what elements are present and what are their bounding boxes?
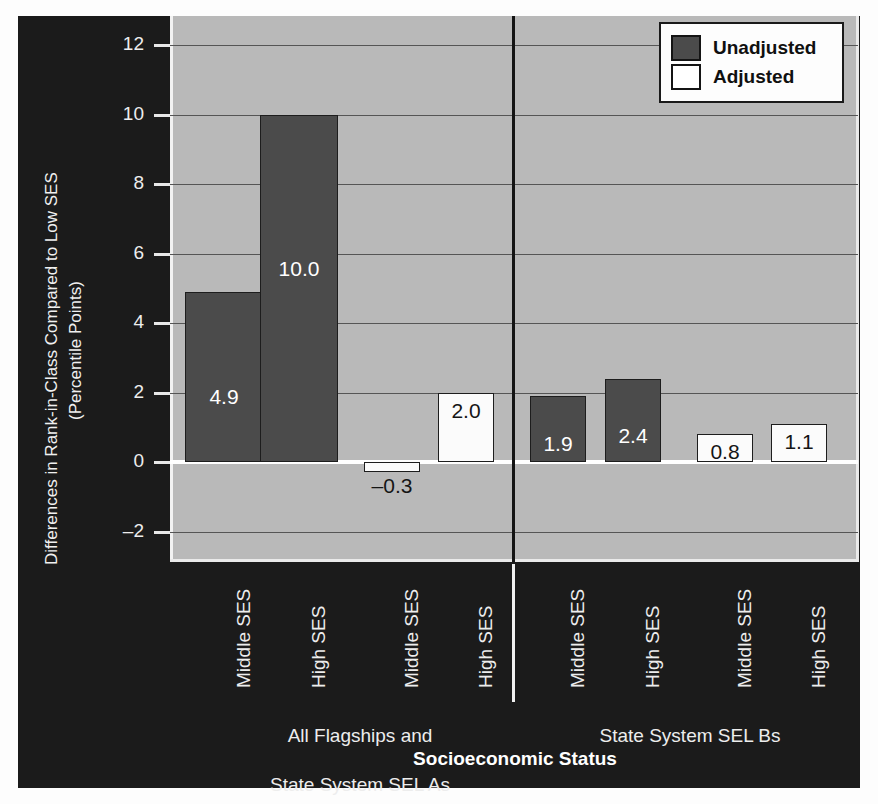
x-category-label-2: Middle SES (401, 589, 423, 688)
group-label-0-line2: State System SEL As (200, 773, 520, 797)
y-tick-label-12: 12 (84, 33, 144, 55)
legend-item-unadjusted[interactable]: Unadjusted (671, 35, 832, 61)
x-axis-title: Socioeconomic Status (170, 748, 860, 770)
plot-right-edge (856, 16, 859, 562)
x-category-label-6: Middle SES (734, 589, 756, 688)
group-divider-lower (512, 564, 515, 702)
chart-figure: 121086420–2 Differences in Rank-in-Class… (0, 0, 878, 804)
y-tick-label-0: 0 (84, 450, 144, 472)
y-tick-2 (154, 392, 170, 395)
y-tick-12 (154, 44, 170, 47)
x-category-label-1: High SES (308, 606, 330, 688)
bar-value-label-0: 4.9 (179, 385, 269, 409)
y-tick-10 (154, 114, 170, 117)
x-category-label-7: High SES (808, 606, 830, 688)
legend-label-adjusted: Adjusted (713, 66, 794, 88)
group-label-0-line1: All Flagships and (200, 724, 520, 748)
y-tick-label-2: 2 (84, 381, 144, 403)
y-axis-title-line1: Differences in Rank-in-Class Compared to… (42, 172, 62, 565)
x-category-label-5: High SES (642, 606, 664, 688)
bar-2[interactable] (364, 462, 420, 472)
legend-item-adjusted[interactable]: Adjusted (671, 64, 832, 90)
x-category-label-0: Middle SES (233, 589, 255, 688)
y-tick--2 (154, 531, 170, 534)
group-label-1-line1: State System SEL Bs (530, 724, 850, 748)
x-category-label-4: Middle SES (567, 589, 589, 688)
y-tick-label-4: 4 (84, 311, 144, 333)
x-category-label-3: High SES (475, 606, 497, 688)
group-divider-upper (512, 16, 515, 562)
y-tick-4 (154, 322, 170, 325)
legend-label-unadjusted: Unadjusted (713, 37, 816, 59)
legend[interactable]: Unadjusted Adjusted (659, 22, 844, 103)
y-tick-8 (154, 183, 170, 186)
legend-swatch-unadjusted-icon (671, 35, 701, 61)
bar-1[interactable] (260, 115, 338, 463)
y-tick-label-10: 10 (84, 103, 144, 125)
y-tick-label--2: –2 (84, 520, 144, 542)
bar-value-label-3: 2.0 (421, 399, 511, 423)
bar-value-label-1: 10.0 (254, 257, 344, 281)
bar-value-label-5: 2.4 (588, 424, 678, 448)
bar-0[interactable] (185, 292, 263, 462)
y-tick-label-8: 8 (84, 172, 144, 194)
bar-value-label-7: 1.1 (754, 430, 844, 454)
y-tick-6 (154, 253, 170, 256)
bar-5[interactable] (605, 379, 661, 462)
y-axis-title-line2: (Percentile Points) (66, 281, 86, 420)
bar-value-label-2: –0.3 (347, 474, 437, 498)
y-tick-0 (154, 461, 170, 464)
y-tick-label-6: 6 (84, 242, 144, 264)
legend-swatch-adjusted-icon (671, 64, 701, 90)
